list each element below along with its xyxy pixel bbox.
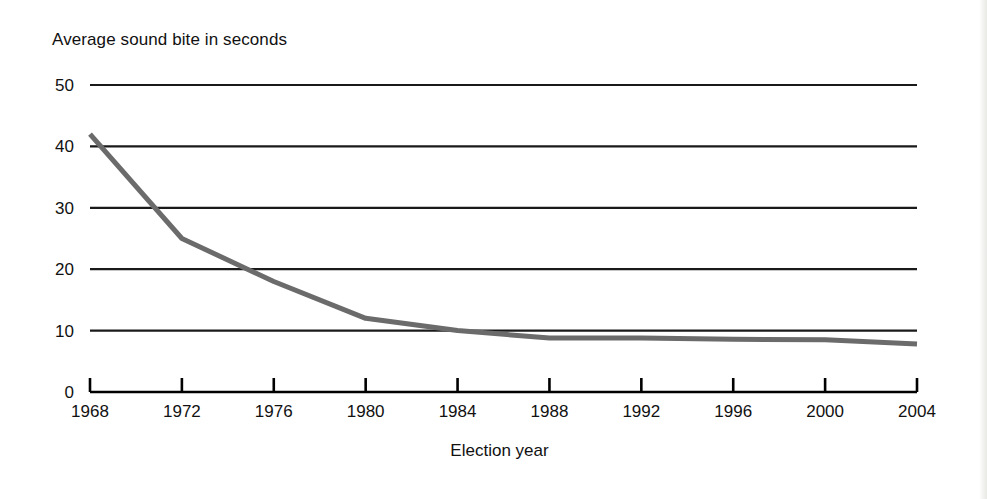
x-tick-label-group: 1968197219761980198419881992199620002004: [71, 402, 936, 421]
chart-figure: Average sound bite in seconds 0102030405…: [0, 0, 987, 499]
data-series-line: [90, 134, 917, 344]
axis-lines: [90, 378, 917, 392]
x-tick-label-2004: 2004: [898, 402, 936, 421]
y-tick-label-50: 50: [55, 76, 74, 95]
y-tick-label-group: 01020304050: [55, 76, 74, 402]
x-tick-label-1972: 1972: [163, 402, 201, 421]
y-tick-label-40: 40: [55, 137, 74, 156]
x-tick-label-1984: 1984: [439, 402, 477, 421]
y-tick-label-0: 0: [65, 383, 74, 402]
x-tick-label-1968: 1968: [71, 402, 109, 421]
y-tick-label-30: 30: [55, 199, 74, 218]
gridline-group: [90, 85, 917, 331]
x-tick-group: [182, 378, 825, 392]
y-tick-label-10: 10: [55, 322, 74, 341]
line-chart-plot: 01020304050 1968197219761980198419881992…: [0, 0, 987, 499]
x-tick-label-1992: 1992: [622, 402, 660, 421]
y-tick-label-20: 20: [55, 260, 74, 279]
x-tick-label-1976: 1976: [255, 402, 293, 421]
series-line-average-sound-bite: [90, 134, 917, 344]
x-tick-label-2000: 2000: [806, 402, 844, 421]
page-edge-shadow: [979, 0, 987, 499]
chart-x-axis-label: Election year: [438, 441, 548, 461]
x-tick-label-1996: 1996: [714, 402, 752, 421]
x-tick-label-1980: 1980: [347, 402, 385, 421]
x-tick-label-1988: 1988: [531, 402, 569, 421]
chart-x-axis-label-wrap: Election year: [0, 441, 987, 461]
